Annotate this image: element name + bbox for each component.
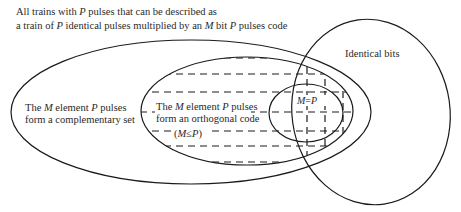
orthogonal-code-condition: (M≤P) [174,128,202,140]
complementary-set-label-line-2: form a complementary set [25,114,135,125]
title-line-2: a train of P identical pulses multiplied… [16,20,288,31]
orthogonal-code-label-line-2: form an orthogonal code [156,113,260,124]
m-equals-p-label: M=P [296,95,317,106]
complementary-set-label-line-1: The M element P pulses [25,102,126,113]
title-line-1: All trains with P pulses that can be des… [16,6,217,17]
orthogonal-code-label-line-1: The M element P pulses [156,101,257,112]
identical-bits-label: Identical bits [345,48,400,59]
venn-diagram: All trains with P pulses that can be des… [0,0,461,212]
m-equals-p-ellipse [269,84,343,142]
